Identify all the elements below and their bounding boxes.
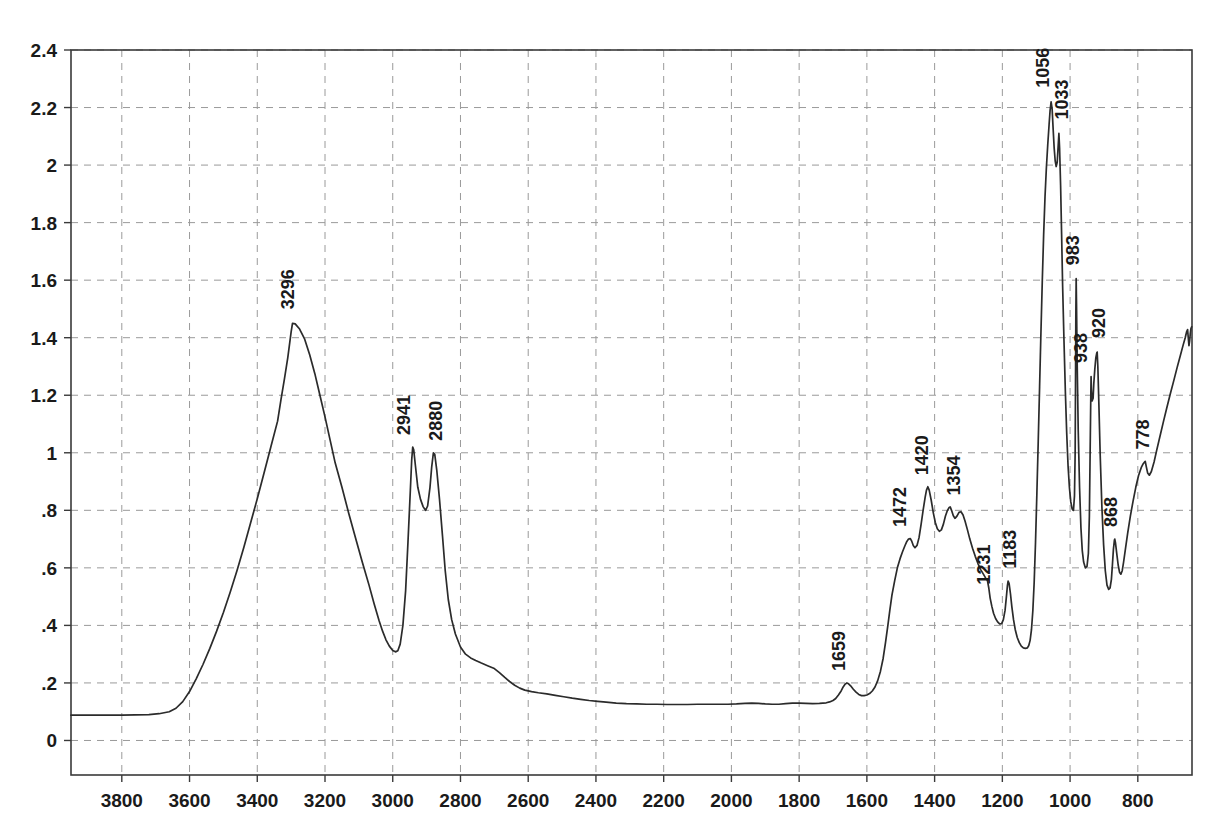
x-tick-label: 1400 <box>913 790 955 811</box>
peak-label-1472: 1472 <box>890 487 910 527</box>
spectrum-plot-area: 0.2.4.6.811.21.41.61.822.22.4 3800360034… <box>0 0 1230 839</box>
x-axis-tick-labels: 3800360034003200300028002600240022002000… <box>101 790 1154 811</box>
absorbance-trace <box>71 102 1192 715</box>
peak-label-1354: 1354 <box>944 455 964 495</box>
grid-layer <box>71 50 1192 775</box>
peak-annotations: 3296294128801659147214201354123111831056… <box>278 48 1153 671</box>
x-tick-label: 1000 <box>1049 790 1091 811</box>
x-tick-label: 1600 <box>846 790 888 811</box>
plot-border <box>71 50 1192 775</box>
x-tick-label: 3800 <box>101 790 143 811</box>
peak-label-1231: 1231 <box>974 545 994 585</box>
peak-label-1183: 1183 <box>1000 530 1020 569</box>
peak-label-868: 868 <box>1101 497 1121 527</box>
x-tick-label: 1200 <box>981 790 1023 811</box>
peak-label-1033: 1033 <box>1052 79 1072 119</box>
spectrum-curve <box>71 102 1192 715</box>
y-tick-label: 1 <box>46 443 57 464</box>
x-tick-label: 2800 <box>439 790 481 811</box>
y-tick-label: .6 <box>41 558 57 579</box>
y-tick-label: .4 <box>41 615 57 636</box>
y-tick-label: 1.4 <box>31 328 58 349</box>
y-tick-label: 1.6 <box>31 270 57 291</box>
peak-label-1659: 1659 <box>829 631 849 671</box>
x-tick-label: 2400 <box>575 790 617 811</box>
y-tick-label: 1.2 <box>31 385 57 406</box>
peak-label-938: 938 <box>1071 333 1091 363</box>
peak-label-920: 920 <box>1089 308 1109 338</box>
peak-label-983: 983 <box>1063 235 1083 265</box>
y-tick-label: 0 <box>46 730 57 751</box>
y-tick-label: .8 <box>41 500 57 521</box>
x-tick-label: 3000 <box>372 790 414 811</box>
x-tick-label: 2200 <box>643 790 685 811</box>
peak-label-1056: 1056 <box>1033 48 1053 88</box>
axis-ticks <box>64 50 1138 782</box>
peak-label-2880: 2880 <box>426 401 446 441</box>
peak-label-2941: 2941 <box>394 395 414 435</box>
x-tick-label: 3600 <box>168 790 210 811</box>
ir-spectrum-chart: 0.2.4.6.811.21.41.61.822.22.4 3800360034… <box>0 0 1230 839</box>
x-tick-label: 2600 <box>507 790 549 811</box>
peak-label-778: 778 <box>1133 419 1153 449</box>
y-tick-label: 2 <box>46 155 57 176</box>
x-tick-label: 3400 <box>236 790 278 811</box>
x-tick-label: 3200 <box>304 790 346 811</box>
y-tick-label: 2.4 <box>31 40 58 61</box>
plot-frame <box>71 50 1192 775</box>
y-tick-label: 1.8 <box>31 213 57 234</box>
y-axis-tick-labels: 0.2.4.6.811.21.41.61.822.22.4 <box>31 40 58 751</box>
peak-label-1420: 1420 <box>912 435 932 475</box>
y-tick-label: .2 <box>41 673 57 694</box>
y-tick-label: 2.2 <box>31 98 57 119</box>
peak-label-3296: 3296 <box>278 269 298 309</box>
x-tick-label: 1800 <box>778 790 820 811</box>
x-tick-label: 800 <box>1122 790 1154 811</box>
x-tick-label: 2000 <box>710 790 752 811</box>
